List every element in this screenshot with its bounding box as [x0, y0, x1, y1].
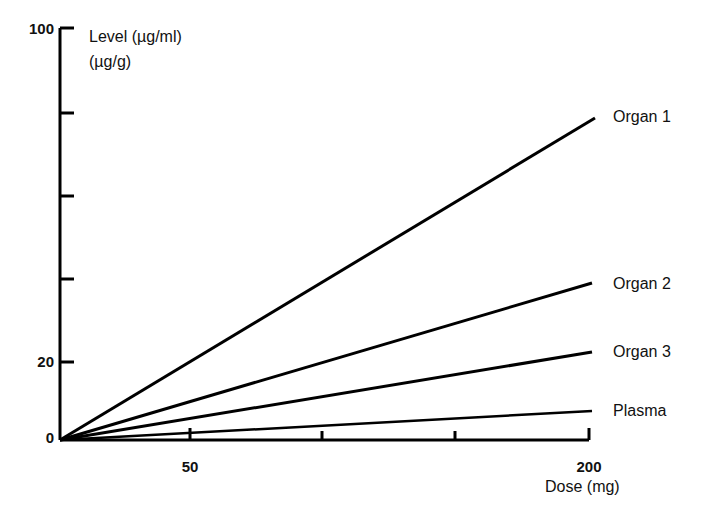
chart-canvas — [0, 0, 713, 523]
series-label-plasma: Plasma — [613, 402, 666, 420]
x-tick-label-50: 50 — [160, 458, 220, 475]
y-tick-label-0: 0 — [6, 429, 54, 446]
series-label-organ-1: Organ 1 — [613, 108, 671, 126]
series-line-organ-1 — [60, 118, 595, 440]
y-tick-label-100: 100 — [6, 20, 54, 37]
series-line-organ-3 — [60, 352, 592, 440]
y-tick-label-20: 20 — [6, 353, 54, 370]
y-axis-title-line-2: (µg/g) — [89, 53, 131, 71]
chart-figure: 100 20 0 Level (µg/ml) (µg/g) 50 200 Dos… — [0, 0, 713, 523]
y-axis-title-line-1: Level (µg/ml) — [89, 28, 182, 46]
series-label-organ-3: Organ 3 — [613, 343, 671, 361]
series-label-organ-2: Organ 2 — [613, 275, 671, 293]
x-axis-title: Dose (mg) — [545, 478, 620, 496]
x-tick-label-200: 200 — [559, 458, 619, 475]
